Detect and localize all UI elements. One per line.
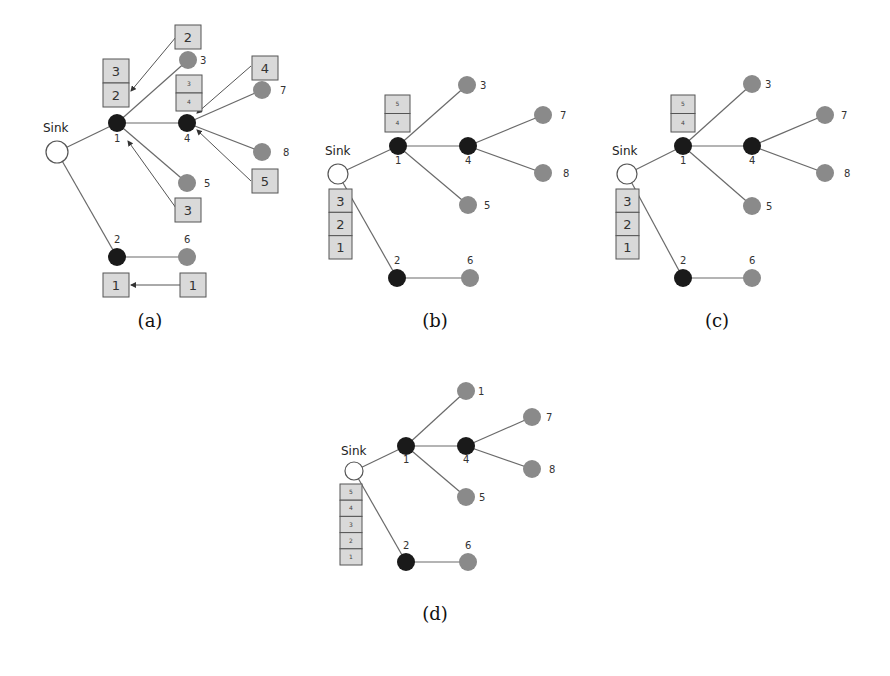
packet-id: 2 <box>112 88 120 103</box>
packet-queue: 1 <box>103 273 129 297</box>
packet-queue: 34 <box>176 75 202 111</box>
node-label: 7 <box>560 110 566 121</box>
packet-id: 2 <box>349 537 353 544</box>
member-node-7: 7 <box>523 408 552 426</box>
leaf-node-circle <box>523 460 541 478</box>
member-node-6: 6 <box>178 234 196 266</box>
node-label: 2 <box>394 255 400 266</box>
member-node-3: 3 <box>743 75 771 93</box>
member-node-7: 7 <box>534 106 566 124</box>
edge-1-3 <box>406 391 466 446</box>
packet-queue: 32 <box>103 59 129 107</box>
head-node-circle <box>397 437 415 455</box>
packet-id: 1 <box>189 278 197 293</box>
node-label: 3 <box>480 80 486 91</box>
cluster-head-node-4: 4 <box>459 137 477 166</box>
cluster-head-node-2: 2 <box>388 255 406 287</box>
edge-4-7 <box>752 115 825 146</box>
packet-queues: 54321 <box>340 484 362 565</box>
leaf-node-circle <box>178 174 196 192</box>
leaf-node-circle <box>816 106 834 124</box>
packet-id: 2 <box>623 217 631 232</box>
node-label: 8 <box>283 147 289 158</box>
packet-id: 2 <box>184 30 192 45</box>
sink-circle <box>328 164 348 184</box>
arrow-icon <box>128 141 176 208</box>
node-label: 6 <box>184 234 190 245</box>
node-label: 4 <box>184 133 190 144</box>
packet-queue: 54321 <box>340 484 362 565</box>
head-node-circle <box>178 114 196 132</box>
packet-id: 5 <box>349 488 353 495</box>
member-node-5: 5 <box>459 196 490 214</box>
node-label: 2 <box>114 234 120 245</box>
packet-id: 4 <box>349 504 353 511</box>
cluster-head-node-4: 4 <box>457 437 475 465</box>
cluster-head-node-1: 1 <box>674 137 692 166</box>
head-node-circle <box>457 437 475 455</box>
leaf-node-circle <box>534 106 552 124</box>
member-node-5: 5 <box>743 197 772 215</box>
node-label: 1 <box>478 386 484 397</box>
leaf-node-circle <box>743 269 761 287</box>
node-label: 1 <box>680 155 686 166</box>
packet-queue: 1 <box>180 273 206 297</box>
edges <box>627 84 825 278</box>
sink-label: Sink <box>325 144 351 158</box>
packet-id: 3 <box>623 194 631 209</box>
packet-queue: 321 <box>616 189 639 259</box>
member-node-8: 8 <box>816 164 850 182</box>
head-node-circle <box>388 269 406 287</box>
node-label: 1 <box>114 133 120 144</box>
member-node-3: 1 <box>457 382 484 400</box>
packet-id: 3 <box>336 194 344 209</box>
edge-4-7 <box>468 115 543 146</box>
head-node-circle <box>674 137 692 155</box>
sink-node: Sink <box>341 444 367 480</box>
member-node-6: 6 <box>461 255 479 287</box>
panel-caption: (d) <box>422 603 448 624</box>
head-node-circle <box>389 137 407 155</box>
node-label: 4 <box>463 454 469 465</box>
node-label: 5 <box>766 201 772 212</box>
sensor-nodes: 14378526 <box>674 75 850 287</box>
cluster-head-node-1: 1 <box>389 137 407 166</box>
member-node-8: 8 <box>253 143 289 161</box>
arrow-icon <box>131 37 176 91</box>
node-label: 2 <box>680 255 686 266</box>
member-node-8: 8 <box>534 164 569 182</box>
node-label: 7 <box>546 412 552 423</box>
head-node-circle <box>108 114 126 132</box>
leaf-node-circle <box>459 196 477 214</box>
member-node-5: 5 <box>178 174 210 192</box>
node-label: 2 <box>403 540 409 551</box>
edge-sink-2 <box>57 152 117 257</box>
sink-label: Sink <box>612 144 638 158</box>
packet-queue: 321 <box>329 189 352 259</box>
leaf-node-circle <box>743 75 761 93</box>
packet-id: 1 <box>336 240 344 255</box>
node-label: 8 <box>549 464 555 475</box>
leaf-node-circle <box>523 408 541 426</box>
packet-queue: 5 <box>252 169 278 193</box>
figure-panels: Sink143785262323445311(a)Sink14378526543… <box>43 25 850 624</box>
sink-node: Sink <box>43 121 69 163</box>
sensor-nodes: 14178526 <box>397 382 555 571</box>
packet-queue: 4 <box>252 56 278 80</box>
figure-canvas: Sink143785262323445311(a)Sink14378526543… <box>0 0 890 676</box>
edge-1-5 <box>398 146 468 205</box>
packet-id: 3 <box>349 521 353 528</box>
sink-label: Sink <box>43 121 69 135</box>
edge-4-8 <box>752 146 825 173</box>
packet-queue: 54 <box>671 95 695 132</box>
leaf-node-circle <box>459 553 477 571</box>
member-node-3: 3 <box>458 76 486 94</box>
packet-id: 4 <box>187 98 191 105</box>
head-node-circle <box>108 248 126 266</box>
member-node-7: 7 <box>253 81 286 99</box>
head-node-circle <box>674 269 692 287</box>
node-label: 7 <box>280 85 286 96</box>
panel-caption: (b) <box>422 310 448 331</box>
node-label: 3 <box>200 55 206 66</box>
member-node-7: 7 <box>816 106 847 124</box>
